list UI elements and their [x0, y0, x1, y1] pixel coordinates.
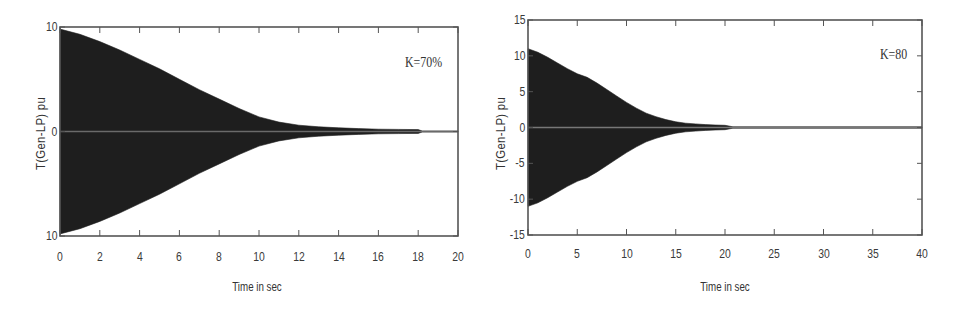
chart-k80: K=80 Time in sec T(Gen-LP) pu 0510152025…	[0, 0, 955, 315]
y-tick-label: -15	[510, 227, 525, 242]
y-tick-label: 15	[513, 12, 525, 27]
x-tick-label: 35	[867, 246, 879, 261]
x-tick-label: 5	[574, 246, 580, 261]
x-tick-label: 10	[621, 246, 633, 261]
x-tick-label: 20	[719, 246, 731, 261]
x-axis-label-k80: Time in sec	[700, 279, 749, 294]
x-tick-label: 25	[768, 246, 780, 261]
y-tick-label: -10	[510, 191, 525, 206]
y-tick-label: 10	[513, 48, 525, 63]
x-tick-label: 15	[670, 246, 682, 261]
y-tick-label: -5	[516, 155, 525, 170]
x-tick-label: 0	[525, 246, 531, 261]
x-tick-label: 30	[818, 246, 830, 261]
annotation-k80: K=80	[880, 47, 907, 63]
y-axis-label-k80: T(Gen-LP) pu	[494, 97, 508, 170]
y-tick-label: 5	[519, 84, 525, 99]
y-tick-label: 0	[519, 120, 525, 135]
plot-area-k80	[0, 0, 955, 315]
x-tick-label: 40	[916, 246, 928, 261]
